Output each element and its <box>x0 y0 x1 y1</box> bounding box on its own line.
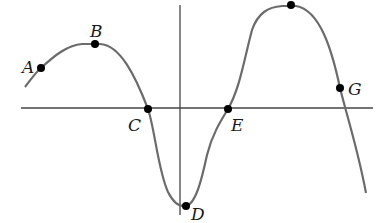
point-g <box>336 84 344 92</box>
point-peak <box>287 1 295 9</box>
label-d: D <box>190 204 205 223</box>
point-e <box>224 105 232 113</box>
label-a: A <box>20 57 34 77</box>
point-c <box>144 105 152 113</box>
label-b: B <box>89 21 103 41</box>
label-e: E <box>230 115 244 135</box>
label-g: G <box>348 79 362 99</box>
point-a <box>37 64 45 72</box>
function-curve <box>25 6 366 206</box>
point-d <box>182 202 190 210</box>
label-c: C <box>128 115 141 135</box>
point-b <box>91 40 99 48</box>
function-graph: A B C D E G <box>0 0 376 223</box>
